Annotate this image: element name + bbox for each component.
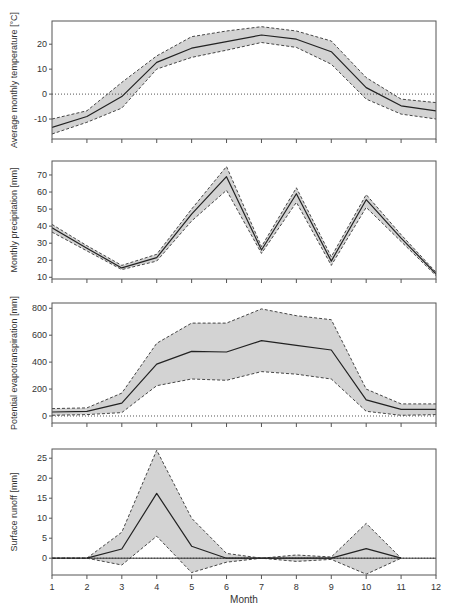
y-tick-label: 800 (32, 303, 47, 313)
x-axis-title: Month (230, 594, 258, 605)
y-tick-label: 20 (37, 255, 47, 265)
y-tick-label: 40 (37, 221, 47, 231)
x-tick-label: 7 (259, 582, 264, 592)
y-axis-label-precipitation: Monthly precipitation [mm] (9, 167, 19, 272)
x-tick-label: 5 (189, 582, 194, 592)
y-tick-label: 50 (37, 204, 47, 214)
uncertainty-band (52, 450, 401, 574)
plot-area (52, 309, 436, 416)
x-tick-label: 11 (396, 582, 405, 592)
plot-area (52, 167, 436, 276)
x-tick-label: 4 (154, 582, 159, 592)
y-tick-label: 10 (37, 64, 47, 74)
uncertainty-band (52, 309, 436, 415)
x-tick-label: 8 (294, 582, 299, 592)
x-tick-label: 1 (49, 582, 54, 592)
y-tick-label: 20 (37, 473, 47, 483)
y-tick-label: 400 (32, 357, 47, 367)
plot-area (52, 450, 436, 574)
y-tick-label: 200 (32, 384, 47, 394)
panel-temperature: -1001020Average monthly temperature [°C] (9, 12, 436, 148)
x-tick-label: 3 (119, 582, 124, 592)
y-tick-label: 20 (37, 39, 47, 49)
y-tick-label: 70 (37, 170, 47, 180)
y-tick-label: 0 (42, 89, 47, 99)
uncertainty-band (52, 27, 436, 134)
y-tick-label: 60 (37, 187, 47, 197)
y-tick-label: 25 (37, 453, 47, 463)
mean-line (52, 35, 436, 128)
four-panel-chart: -1001020Average monthly temperature [°C]… (0, 0, 457, 615)
x-axis: 123456789101112 (49, 582, 441, 592)
x-tick-label: 12 (431, 582, 441, 592)
y-tick-label: 10 (37, 272, 47, 282)
y-tick-label: 0 (42, 411, 47, 421)
y-tick-label: 5 (42, 533, 47, 543)
y-tick-label: 10 (37, 513, 47, 523)
lower-bound-line (52, 190, 436, 275)
y-axis-label-temperature: Average monthly temperature [°C] (9, 12, 19, 148)
y-axis-label-surface-runoff: Surface runoff [mm] (9, 473, 19, 552)
y-tick-label: 0 (42, 553, 47, 563)
x-tick-label: 9 (329, 582, 334, 592)
x-tick-label: 2 (84, 582, 89, 592)
panel-surface-runoff: 0510152025Surface runoff [mm] (9, 449, 436, 579)
y-axis-label-evapotranspiration: Potential evapotranspiration [mm] (9, 296, 19, 430)
y-tick-label: 30 (37, 238, 47, 248)
y-tick-label: -10 (34, 114, 47, 124)
plot-area (52, 27, 436, 134)
x-tick-label: 6 (224, 582, 229, 592)
y-tick-label: 600 (32, 330, 47, 340)
panel-precipitation: 10203040506070Monthly precipitation [mm] (9, 161, 436, 283)
x-tick-label: 10 (361, 582, 371, 592)
y-tick-label: 15 (37, 493, 47, 503)
panel-evapotranspiration: 0200400600800Potential evapotranspiratio… (9, 296, 436, 430)
